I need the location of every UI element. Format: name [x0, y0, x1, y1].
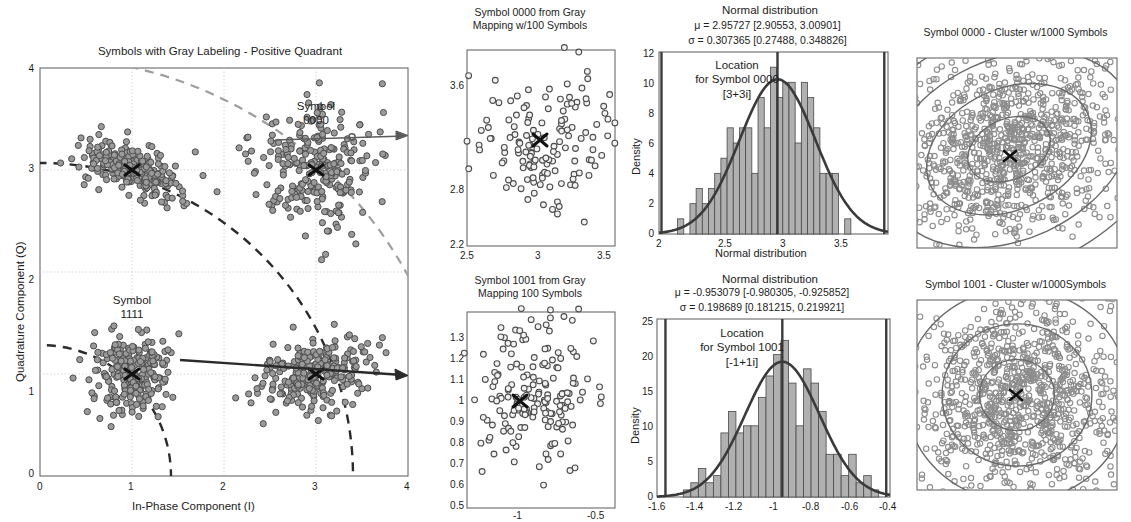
main-y-axis-label: Quadrature Component (Q)	[14, 241, 26, 382]
main-plot-canvas	[40, 68, 408, 476]
main-xtick-2: 2	[220, 481, 226, 492]
zoom-bottom-xtick--0.5: -0.5	[587, 510, 604, 521]
zoom-top-xtick-2.5: 2.5	[460, 250, 474, 261]
main-xtick-3: 3	[312, 481, 318, 492]
hist-top-annotation: Location for Symbol 0000 [3+3i]	[672, 58, 802, 101]
hist-bottom-xtick--0.8: -0.8	[802, 501, 819, 512]
hist-bottom-xtick--1.6: -1.6	[648, 501, 665, 512]
hist-top-ytick-0: 0	[634, 228, 654, 239]
zoom-top-xtick-3.5: 3.5	[597, 250, 611, 261]
hist-top-ytick-2: 2	[634, 198, 654, 209]
hist-bottom-ytick-25: 25	[633, 316, 653, 327]
zoom-bottom-canvas	[467, 312, 615, 508]
zoom-bottom-panel: Symbol 1001 from Gray Mapping 100 Symbol…	[440, 272, 620, 522]
zoom-top-canvas	[467, 50, 615, 246]
zoom-bottom-xtick--1: -1	[513, 510, 522, 521]
cluster-bottom-title: Symbol 1001 - Cluster w/1000Symbols	[900, 278, 1131, 291]
zoom-bottom-ytick-1.1: 1.1	[442, 374, 464, 385]
main-ytick-2: 2	[18, 274, 34, 285]
main-panel-title: Symbols with Gray Labeling - Positive Qu…	[20, 44, 420, 58]
hist-top-xtick-3: 3	[780, 238, 786, 249]
hist-top-ytick-10: 10	[634, 78, 654, 89]
cluster-bottom-canvas	[917, 300, 1117, 490]
histogram-bottom-panel: Normal distribution μ = -0.953079 [-0.98…	[615, 272, 910, 522]
zoom-bottom-ytick-0.8: 0.8	[442, 437, 464, 448]
hist-bottom-annotation: Location for Symbol 1001 [-1+1i]	[677, 326, 807, 369]
hist-top-ytick-8: 8	[634, 108, 654, 119]
cluster-top-title: Symbol 0000 - Cluster w/1000 Symbols	[900, 26, 1131, 39]
main-ytick-1: 1	[18, 386, 34, 397]
hist-bottom-mu-stats: μ = -0.953079 [-0.980305, -0.925852]	[627, 286, 897, 298]
hist-bottom-xtick--1.2: -1.2	[725, 501, 742, 512]
hist-bottom-ytick-15: 15	[633, 386, 653, 397]
hist-bottom-ytick-5: 5	[633, 456, 653, 467]
main-constellation-panel: Symbols with Gray Labeling - Positive Qu…	[0, 0, 440, 522]
hist-bottom-xtick--1: -1	[769, 501, 778, 512]
hist-bottom-ytick-10: 10	[633, 421, 653, 432]
main-ytick-4: 4	[18, 63, 34, 74]
zoom-bottom-ytick-1.3: 1.3	[442, 332, 464, 343]
zoom-bottom-ytick-0.5: 0.5	[442, 500, 464, 511]
cluster-top-canvas	[917, 58, 1117, 248]
zoom-bottom-ytick-0.7: 0.7	[442, 458, 464, 469]
zoom-top-panel: Symbol 0000 from Gray Mapping w/100 Symb…	[440, 0, 620, 262]
hist-bottom-title: Normal distribution	[650, 272, 890, 286]
hist-bottom-sigma-stats: σ = 0.198689 [0.181215, 0.219921]	[627, 301, 897, 313]
hist-bottom-xtick--1.4: -1.4	[686, 501, 703, 512]
main-ytick-3: 3	[18, 163, 34, 174]
cluster-bottom-panel: Symbol 1001 - Cluster w/1000Symbols	[900, 272, 1131, 522]
hist-top-sigma-stats: σ = 0.307365 [0.27488, 0.348826]	[635, 34, 900, 46]
hist-top-xtick-3.5: 3.5	[834, 238, 848, 249]
hist-top-mu-stats: μ = 2.95727 [2.90553, 3.00901]	[635, 19, 900, 31]
symbol-0000-annotation: Symbol 0000	[268, 99, 364, 128]
zoom-top-xtick-3: 3	[535, 250, 541, 261]
histogram-top-panel: Normal distribution μ = 2.95727 [2.90553…	[620, 0, 905, 262]
zoom-bottom-title: Symbol 1001 from Gray Mapping 100 Symbol…	[440, 274, 620, 300]
symbol-1111-annotation: Symbol 1111	[84, 293, 180, 322]
main-x-axis-label: In-Phase Component (I)	[132, 500, 255, 512]
zoom-top-ytick-2.8: 2.8	[442, 184, 464, 195]
zoom-top-title: Symbol 0000 from Gray Mapping w/100 Symb…	[440, 6, 620, 32]
hist-top-xtick-2: 2	[656, 238, 662, 249]
main-xtick-4: 4	[404, 481, 410, 492]
zoom-top-ytick-2.2: 2.2	[442, 239, 464, 250]
hist-bottom-xtick--0.4: -0.4	[879, 501, 896, 512]
hist-top-ytick-6: 6	[634, 138, 654, 149]
main-xtick-0: 0	[37, 481, 43, 492]
hist-top-title: Normal distribution	[650, 3, 890, 17]
hist-top-ytick-12: 12	[634, 48, 654, 59]
hist-bottom-xtick--0.6: -0.6	[841, 501, 858, 512]
cluster-top-panel: Symbol 0000 - Cluster w/1000 Symbols	[900, 0, 1131, 262]
zoom-bottom-ytick-0.9: 0.9	[442, 416, 464, 427]
zoom-bottom-ytick-0.6: 0.6	[442, 479, 464, 490]
hist-top-ytick-4: 4	[634, 168, 654, 179]
main-xtick-1: 1	[128, 481, 134, 492]
hist-top-xtick-2.5: 2.5	[718, 238, 732, 249]
main-ytick-0: 0	[18, 468, 34, 479]
zoom-top-ytick-3.6: 3.6	[442, 80, 464, 91]
zoom-bottom-ytick-1: 1	[442, 395, 464, 406]
zoom-bottom-ytick-1.2: 1.2	[442, 353, 464, 364]
hist-bottom-ytick-20: 20	[633, 351, 653, 362]
